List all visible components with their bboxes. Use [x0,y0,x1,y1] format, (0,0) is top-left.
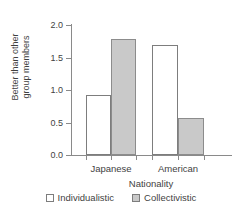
x-tick-5 [178,155,179,160]
plot-area [72,25,230,155]
x-tick-1 [86,155,87,160]
legend-label-collectivistic: Collectivistic [144,193,196,203]
bar-chart: Better than other group members 2.0 1.5 … [0,0,242,209]
legend-label-individualistic: Individualistic [58,193,115,203]
x-tick-2 [111,155,112,160]
chart-legend: Individualistic Collectivistic [0,193,242,203]
x-axis-label: Nationality [72,178,230,189]
x-tick-3 [136,155,137,160]
bar-american-collectivistic [178,118,204,155]
legend-swatch-filled-icon [132,194,140,202]
legend-item-collectivistic: Collectivistic [132,193,196,203]
x-tick-6 [204,155,205,160]
y-tick-label-0-0: 0.0 [23,151,63,160]
bar-japanese-individualistic [86,95,111,155]
legend-swatch-open-icon [46,194,54,202]
y-tick-label-1-5: 1.5 [23,54,63,63]
y-tick-label-2-0: 2.0 [23,21,63,30]
x-category-label-american: American [143,163,213,174]
x-category-label-japanese: Japanese [76,163,146,174]
bar-american-individualistic [152,45,178,155]
x-tick-4 [152,155,153,160]
legend-item-individualistic: Individualistic [46,193,115,203]
bar-japanese-collectivistic [111,39,136,155]
y-tick-label-0-5: 0.5 [23,119,63,128]
y-tick-label-1-0: 1.0 [23,86,63,95]
